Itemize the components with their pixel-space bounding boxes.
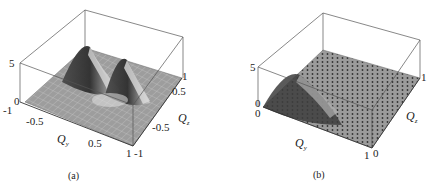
panel-b-z-tick-5: 5 bbox=[250, 61, 256, 73]
panel-b-caption: (b) bbox=[313, 169, 325, 181]
panel-a-qz-label: Qz bbox=[178, 111, 190, 127]
panel-a-qz-tick-05: 0.5 bbox=[172, 85, 186, 97]
panel-a-qz-tick-1: 1 bbox=[182, 70, 188, 82]
panel-b-qz-tick-1: 1 bbox=[421, 71, 427, 83]
panel-a-qy-label: Qy bbox=[57, 132, 70, 148]
panel-b-qz-tick-0: 0 bbox=[373, 147, 379, 159]
panel-a-qz-tick-neg05: -0.5 bbox=[152, 121, 170, 133]
panel-a-z-tick-5: 5 bbox=[9, 57, 15, 69]
panel-a-qy-tick-1: 1 bbox=[126, 147, 132, 159]
panel-b: 5 0 0 1 0 1 Qy Qz (b) bbox=[250, 13, 427, 181]
panel-a-qy-tick-neg05: -0.5 bbox=[26, 115, 44, 127]
panel-b-qy-tick-0: 0 bbox=[255, 107, 261, 119]
panel-a-qy-tick-05: 0.5 bbox=[88, 137, 102, 149]
panel-a-caption: (a) bbox=[68, 170, 79, 182]
panel-a: 5 0 -1 -0.5 0.5 1 -1 -0.5 0.5 1 Qy Qz (a… bbox=[3, 10, 190, 182]
panel-b-qy-tick-1: 1 bbox=[364, 149, 370, 161]
panel-a-z-tick-0: 0 bbox=[14, 95, 20, 107]
figure: 5 0 -1 -0.5 0.5 1 -1 -0.5 0.5 1 Qy Qz (a… bbox=[0, 0, 429, 188]
panel-b-qz-label: Qz bbox=[406, 109, 418, 125]
panel-a-qy-tick-neg1: -1 bbox=[3, 104, 12, 116]
panel-b-qy-label: Qy bbox=[295, 136, 308, 152]
panel-a-qz-tick-neg1: -1 bbox=[134, 147, 143, 159]
